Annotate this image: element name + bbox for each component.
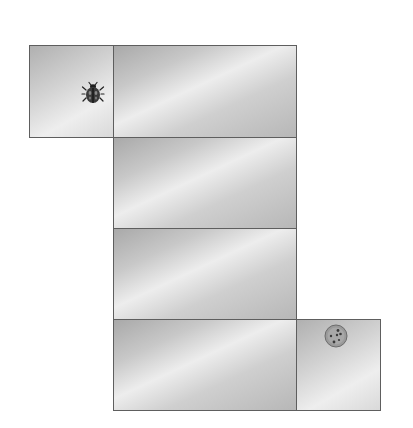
tile-row-1[interactable] — [113, 45, 297, 138]
tile-row-4[interactable] — [113, 319, 297, 411]
tile-row-3[interactable] — [113, 228, 297, 320]
cookie-icon[interactable] — [323, 323, 349, 349]
ladybug-icon[interactable] — [81, 81, 105, 105]
tile-row-2[interactable] — [113, 137, 297, 229]
